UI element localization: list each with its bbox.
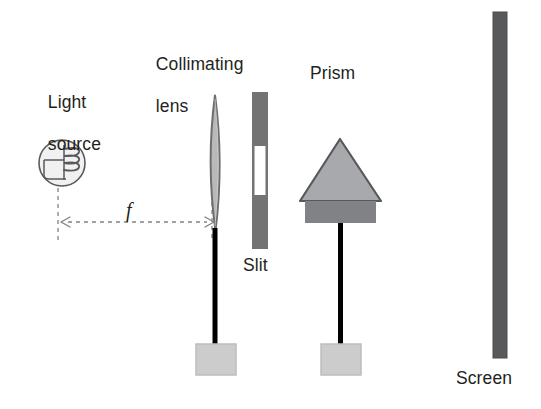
slit-aperture (255, 146, 266, 195)
label-slit: Slit (243, 255, 268, 276)
prism-support-post (338, 223, 343, 346)
label-collimating-lens-line2: lens (156, 96, 189, 116)
label-light-source-line2: source (48, 134, 101, 154)
screen-panel (493, 12, 507, 358)
label-screen: Screen (456, 368, 512, 389)
label-prism: Prism (310, 63, 355, 84)
slit-assembly (252, 92, 268, 249)
lens-support-post (213, 228, 218, 346)
label-light-source: Light source (28, 71, 101, 176)
label-focal-length: f (126, 200, 132, 220)
prism-triangle (300, 139, 381, 201)
focal-length-arrow (61, 217, 214, 227)
lens-stand-base (196, 344, 236, 375)
prism-stand-base (321, 344, 361, 375)
label-light-source-line1: Light (48, 92, 86, 112)
label-collimating-lens: Collimating lens (136, 33, 244, 138)
optics-diagram: Light source Collimating lens f Slit Pri… (0, 0, 541, 409)
label-collimating-lens-line1: Collimating (156, 54, 244, 74)
diagram-canvas (0, 0, 541, 409)
prism-mount-block (305, 201, 376, 223)
